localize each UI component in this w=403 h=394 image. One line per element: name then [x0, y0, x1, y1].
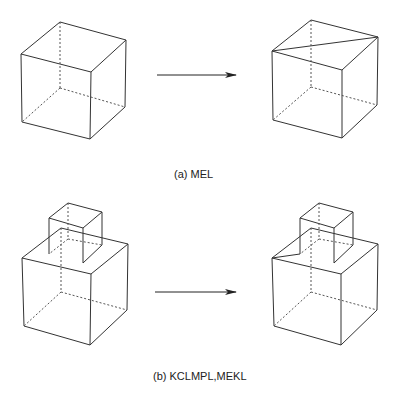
caption-a: (a) MEL: [174, 168, 213, 180]
cube-b-before: [22, 203, 128, 345]
cube-a-before: [21, 22, 126, 139]
cube-a-after: [272, 20, 378, 138]
figure-canvas: [0, 0, 403, 394]
caption-b: (b) KCLMPL,MEKL: [153, 370, 247, 382]
cube-b-after: [272, 203, 378, 345]
